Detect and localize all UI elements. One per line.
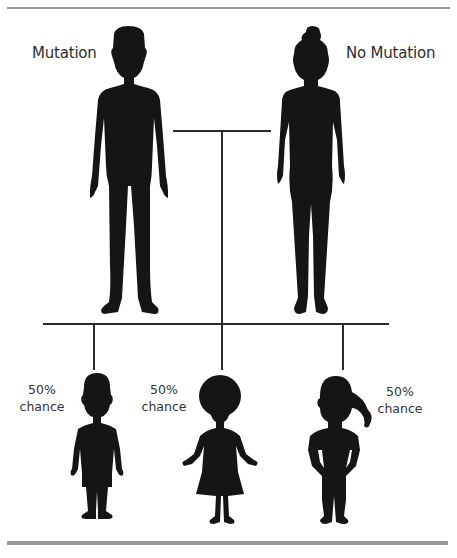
boy-silhouette xyxy=(70,373,126,523)
sibling-line xyxy=(43,323,389,325)
man-body xyxy=(90,26,168,314)
descent-line xyxy=(221,130,223,370)
child-1-probability: 50% chance xyxy=(7,381,77,415)
child-1-line xyxy=(93,323,95,370)
woman-body xyxy=(277,26,345,314)
boy-body xyxy=(71,373,124,519)
child-3-line xyxy=(342,323,344,370)
top-divider xyxy=(7,7,450,9)
curly-hair-girl-silhouette xyxy=(180,376,260,524)
ponytail-girl-body xyxy=(308,376,372,524)
adult-woman-silhouette xyxy=(276,26,346,316)
child-1-caption: chance xyxy=(7,398,77,415)
curly-hair xyxy=(199,375,241,417)
parent-label-no-mutation: No Mutation xyxy=(346,44,435,62)
bottom-divider xyxy=(7,541,448,545)
adult-man-silhouette xyxy=(84,26,174,316)
child-1-percent: 50% xyxy=(7,381,77,398)
girl-dress-body xyxy=(182,412,257,524)
ponytail-girl-silhouette xyxy=(306,376,376,526)
